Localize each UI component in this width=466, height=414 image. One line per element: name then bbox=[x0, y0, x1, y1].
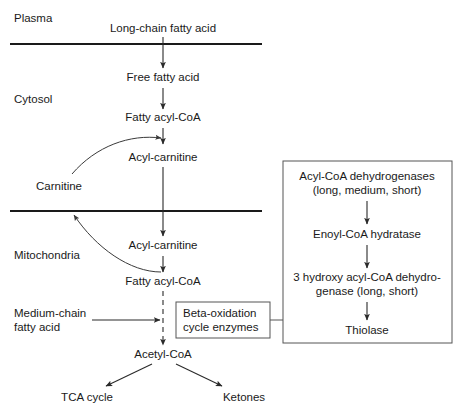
node-medium-chain-fatty-acid-line1: Medium-chain bbox=[14, 307, 86, 319]
pathway-diagram: Plasma Cytosol Mitochondria Long-chain f… bbox=[0, 0, 466, 414]
node-tca-cycle: TCA cycle bbox=[61, 391, 113, 403]
beta-oxidation-box-line1: Beta-oxidation bbox=[183, 307, 257, 319]
node-medium-chain-fatty-acid-line2: fatty acid bbox=[14, 321, 60, 333]
enzyme-step-2-line1: Enoyl-CoA hydratase bbox=[313, 228, 421, 240]
enzyme-step-3-line2: genase (long, short) bbox=[316, 285, 418, 297]
node-carnitine: Carnitine bbox=[36, 180, 82, 192]
compartment-label-cytosol: Cytosol bbox=[14, 93, 52, 105]
node-ketones: Ketones bbox=[223, 391, 265, 403]
enzyme-step-1-line1: Acyl-CoA dehydrogenases bbox=[299, 170, 435, 182]
enzyme-step-1-line2: (long, medium, short) bbox=[313, 184, 422, 196]
enzyme-step-4-line1: Thiolase bbox=[345, 324, 388, 336]
compartment-label-mitochondria: Mitochondria bbox=[14, 249, 80, 261]
node-long-chain-fatty-acid: Long-chain fatty acid bbox=[110, 22, 216, 34]
pathway-svg: Plasma Cytosol Mitochondria Long-chain f… bbox=[0, 0, 466, 414]
arrow-acetylcoa-to-tca bbox=[106, 364, 152, 386]
beta-oxidation-box-line2: cycle enzymes bbox=[183, 321, 259, 333]
node-acyl-carnitine-inner: Acyl-carnitine bbox=[128, 239, 197, 251]
enzyme-step-3-line1: 3 hydroxy acyl-CoA dehydro- bbox=[293, 271, 441, 283]
node-free-fatty-acid: Free fatty acid bbox=[127, 71, 200, 83]
node-fatty-acyl-coa-cytosol: Fatty acyl-CoA bbox=[125, 111, 201, 123]
arrow-acetylcoa-to-ketones bbox=[176, 364, 222, 386]
node-acyl-carnitine-outer: Acyl-carnitine bbox=[128, 151, 197, 163]
node-fatty-acyl-coa-mito: Fatty acyl-CoA bbox=[125, 275, 201, 287]
compartment-label-plasma: Plasma bbox=[14, 12, 53, 24]
node-acetyl-coa: Acetyl-CoA bbox=[134, 348, 192, 360]
